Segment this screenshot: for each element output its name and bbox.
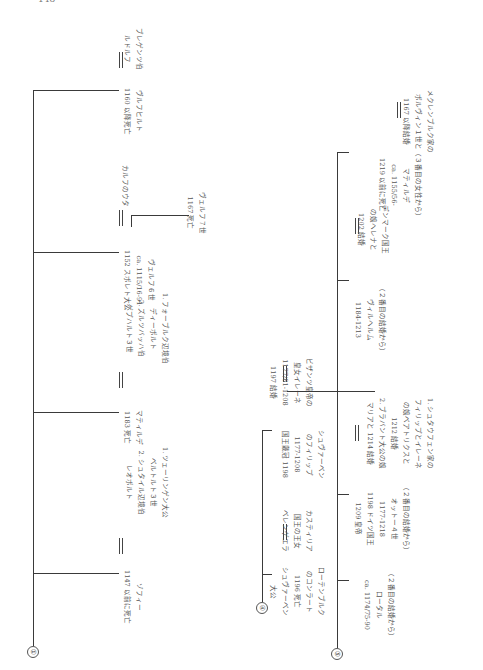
person-wulfhild: ヴルフヒルト1160 以降死亡: [121, 88, 145, 135]
branch-line: [33, 252, 119, 253]
person-mathilde: マティルデ1183 死亡: [121, 410, 145, 445]
spouse-uta: カルフのウタ: [119, 165, 131, 207]
spouse-sophie: 1. ツェーリンゲン大公ベルトルト３世2. シュタイル辺境伯レオポルト: [123, 447, 171, 518]
child-welf-vii: ヴェルフ７世1167 死亡: [184, 192, 208, 234]
person-mathilde-5: （３番目の女性から）マティルデca. 1155/56-1219 以前に死亡: [376, 150, 424, 220]
branch-line: [337, 494, 349, 495]
branch-line: [33, 90, 119, 91]
page-number: 148: [38, 0, 55, 4]
section-1-trunk: [33, 90, 34, 646]
section-5-trunk: [337, 152, 338, 648]
person-lothar: （２番目の結婚から）ロータルca. 1174/75-90: [361, 570, 397, 640]
branch-line: [262, 430, 272, 431]
child-line: [131, 215, 132, 227]
section-1-marker: ①: [27, 646, 39, 658]
person-konrad: ローテンブルクのコンラート1196 死亡シュヴァーベン大公: [267, 567, 327, 616]
spouse-borwin: メクレンブルク家のボルヴィン１世と1167 以降結婚: [400, 90, 436, 153]
child-line: [131, 215, 189, 216]
person-wilhelm: （２番目の結婚から）ヴィルヘルム1184-1213: [352, 285, 388, 355]
person-welf-vi: ヴェルフ６世ca. 1115/16-911152 スポレト大公: [121, 250, 157, 311]
person-otto-iv: （２番目の結婚から）オットー４世1177-12181198 ドイツ国王1209 …: [352, 484, 412, 554]
section-4-trunk: [262, 430, 263, 602]
person-sophie: ゾフィー1147 以前に死亡: [121, 570, 145, 624]
spouse-irene: ビザンツ皇帝の皇女イレーネ1177/81-12081197 結婚: [267, 358, 315, 407]
descent-line: [287, 391, 375, 392]
branch-line: [33, 412, 119, 413]
branch-line: [337, 580, 349, 581]
branch-line: [337, 280, 349, 281]
branch-line: [33, 573, 119, 574]
spouse-otto-iv: 1. シュタウフェン家のフィリップとイレーネの娘ベアトリクスと1212 結婚2.…: [364, 398, 436, 469]
spouse-wulfhild: ブレゲンツ伯ルドルフ: [121, 28, 145, 70]
spouse-berengaria: カスティリア国王の王女ベレンゲエラ: [279, 510, 315, 552]
person-philipp: シュヴァーベンのフィリップ1177-1208国王戴冠 1198: [279, 430, 327, 479]
branch-line: [337, 152, 349, 153]
section-5-marker: ⑤: [331, 648, 343, 660]
